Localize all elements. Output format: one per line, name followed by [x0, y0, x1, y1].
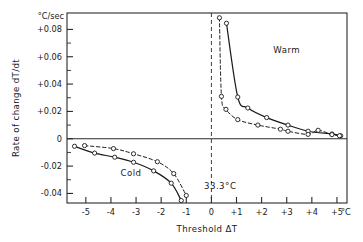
data-point-marker [286, 129, 290, 133]
data-point-marker [217, 16, 221, 20]
data-point-marker [246, 106, 250, 110]
x-tick-label: +2 [256, 207, 268, 217]
data-point-marker [82, 143, 86, 147]
series-curve [226, 23, 340, 136]
y-axis-unit-label: °C/sec [38, 11, 64, 21]
data-point-marker [265, 115, 269, 119]
x-tick-label: -2 [157, 207, 165, 217]
chart-figure: -0.04-0.020+0.02+0.04+0.06+0.08 -5-4-3-2… [0, 0, 363, 242]
x-tick-label: +1 [230, 207, 242, 217]
data-point-marker [224, 107, 228, 111]
x-tick-label: -3 [132, 207, 140, 217]
data-point-marker [330, 133, 334, 137]
y-tick-label: 0 [57, 134, 62, 144]
x-tick-label: -4 [107, 207, 115, 217]
data-point-marker [72, 144, 76, 148]
data-point-marker [184, 193, 188, 197]
baseline-temperature-label: 33.3°C [204, 181, 236, 191]
data-point-marker [306, 132, 310, 136]
x-axis-unit-label: °C [341, 207, 351, 217]
data-point-marker [113, 155, 117, 159]
data-point-marker [131, 160, 135, 164]
data-point-marker [256, 123, 260, 127]
y-tick-label: +0.02 [37, 106, 62, 116]
y-tick-label: -0.04 [41, 188, 62, 198]
x-tick-label: +3 [281, 207, 293, 217]
data-point-marker [169, 181, 173, 185]
y-tick-label: +0.08 [37, 24, 62, 34]
chart-annotations: WarmCold33.3°C [120, 45, 300, 192]
x-tick-label: 0 [209, 207, 214, 217]
data-point-marker [236, 118, 240, 122]
plot-frame [67, 13, 347, 203]
data-point-marker [155, 160, 159, 164]
x-tick-label: -1 [182, 207, 190, 217]
warm-region-label: Warm [273, 45, 300, 55]
data-point-marker [278, 127, 282, 131]
y-tick-label: +0.06 [37, 52, 62, 62]
data-point-marker [93, 151, 97, 155]
reference-lines [67, 13, 347, 203]
data-series-curves [75, 18, 341, 201]
y-axis-ticks [67, 29, 73, 193]
y-tick-label: -0.02 [41, 161, 62, 171]
x-tick-label: -5 [82, 207, 90, 217]
data-point-marker [316, 128, 320, 132]
rate-of-change-vs-threshold-chart: -0.04-0.020+0.02+0.04+0.06+0.08 -5-4-3-2… [0, 0, 363, 242]
x-axis-tick-labels: -5-4-3-2-10+1+2+3+4+5 [82, 207, 343, 217]
y-axis-tick-labels: -0.04-0.020+0.02+0.04+0.06+0.08 [37, 24, 62, 198]
x-tick-label: +4 [306, 207, 318, 217]
data-point-markers [72, 16, 342, 203]
data-point-marker [131, 152, 135, 156]
y-tick-label: +0.04 [37, 79, 62, 89]
data-point-marker [219, 94, 223, 98]
data-point-marker [179, 198, 183, 202]
data-point-marker [236, 95, 240, 99]
data-point-marker [172, 172, 176, 176]
cold-region-label: Cold [120, 168, 141, 178]
data-point-marker [286, 123, 290, 127]
data-point-marker [152, 169, 156, 173]
y-axis-title: Rate of change dT/dt [11, 59, 21, 157]
data-point-marker [224, 21, 228, 25]
data-point-marker [337, 134, 341, 138]
x-axis-title: Threshold ΔT [175, 224, 237, 234]
data-point-marker [111, 147, 115, 151]
